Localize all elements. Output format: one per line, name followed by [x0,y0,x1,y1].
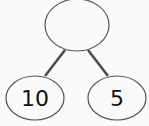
whole-circle [45,0,109,51]
part-left-value: 10 [21,86,49,111]
number-bond-diagram: 10 5 [0,0,149,126]
connector-left [45,50,65,76]
part-right-value: 5 [110,86,124,111]
connector-right [88,50,108,76]
